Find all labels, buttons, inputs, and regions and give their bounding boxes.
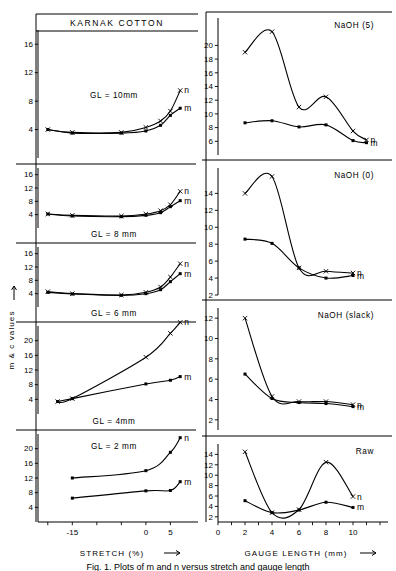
series-label-m: m [357,502,364,512]
x-tick-label: 2 [243,528,248,537]
data-point-x [178,189,182,193]
y-tick-label: 16 [24,249,33,258]
panel-left-4: 48121620GL = 2 mmnm-1505 [24,433,198,537]
panel-label: NaOH (5) [334,21,374,30]
data-point-square [352,506,355,509]
y-tick-label: 18 [204,55,213,64]
series-curve-n [245,452,353,518]
panel-left-1: 481216GL = 8 mmnm [24,168,191,239]
data-point-square [365,141,368,144]
y-tick-label: 10 [204,471,213,480]
y-tick-label: 16 [24,459,33,468]
data-point-square [71,293,74,296]
data-point-square [71,477,74,480]
data-point-square [325,501,328,504]
series-label-m: m [184,269,191,279]
data-point-x [168,275,172,279]
data-point-square [352,139,355,142]
panel-label: GL = 6 mm [91,309,137,318]
data-point-square [179,272,182,275]
x-tick-label: 10 [349,528,358,537]
data-point-square [46,291,49,294]
data-point-square [71,497,74,500]
data-point-x [270,30,274,34]
data-point-square [169,114,172,117]
series-label-n: n [184,85,189,95]
data-point-square [71,397,74,400]
figure-container: KARNAK COTTON481216GL = 10mmnm481216GL =… [0,0,396,571]
data-point-x [351,494,355,498]
data-point-square [159,288,162,291]
y-tick-label: 20 [24,444,33,453]
series-label-m: m [357,271,364,281]
data-point-square [144,469,147,472]
y-tick-label: 8 [209,355,214,364]
y-tick-label: 20 [204,41,213,50]
panel-label: NaOH (slack) [318,311,374,320]
panel-label: GL = 4mm [93,417,136,426]
data-point-square [144,129,147,132]
y-tick-label: 12 [204,461,213,470]
data-point-square [159,124,162,127]
x-tick-label: 5 [168,528,173,537]
series-label-m: m [184,372,191,382]
data-point-square [179,107,182,110]
series-label-m: m [184,477,191,487]
series-curve-n [245,318,353,404]
panel-left-0: 481216GL = 10mmnm [24,30,191,158]
series-label-m: m [184,196,191,206]
data-point-square [298,266,301,269]
data-point-square [144,382,147,385]
y-tick-label: 8 [29,197,34,206]
y-tick-label: 12 [24,366,33,375]
data-point-square [169,379,172,382]
panel-left-3: 48121620GL = 4mmnm [24,317,191,426]
series-curve-n [245,173,353,276]
series-label-n: n [357,492,362,502]
panel-label: Raw [356,447,374,456]
data-point-square [169,205,172,208]
y-tick-label: 4 [209,395,214,404]
data-point-square [120,294,123,297]
data-point-square [325,277,328,280]
x-tick-label: 4 [270,528,275,537]
y-tick-label: 6 [209,492,214,501]
yaxis-arrow-icon [12,286,17,300]
yaxis-label: m & c values [7,311,16,370]
y-tick-label: 12 [204,314,213,323]
y-tick-label: 8 [29,488,34,497]
x-tick-label: 0 [144,528,149,537]
y-tick-label: 8 [29,380,34,389]
y-tick-label: 10 [204,110,213,119]
data-point-square [244,373,247,376]
panel-right-1: 2468101214NaOH (0)nm [204,168,374,300]
y-tick-label: 16 [24,351,33,360]
y-tick-label: 2 [209,291,214,300]
data-point-square [271,511,274,514]
y-tick-label: 8 [29,276,34,285]
y-tick-label: 12 [204,96,213,105]
y-tick-label: 4 [29,289,34,298]
data-point-x [270,174,274,178]
series-curve-m [58,377,181,402]
y-tick-label: 16 [24,170,33,179]
y-tick-label: 2 [209,513,214,522]
data-point-square [120,132,123,135]
data-point-square [144,489,147,492]
data-point-x [351,129,355,133]
y-tick-label: 12 [24,474,33,483]
data-point-x [168,331,172,335]
data-point-square [298,125,301,128]
data-point-square [271,242,274,245]
panel-right-3: 2468101214Rawnm0246810 [204,444,388,537]
figure-caption: Fig. 1. Plots of m and n versus stretch … [86,562,309,571]
data-point-square [169,489,172,492]
series-label-n: n [184,259,189,269]
y-tick-label: 20 [24,336,33,345]
data-point-square [298,401,301,404]
y-tick-label: 16 [204,69,213,78]
series-label-n: n [184,433,189,443]
left-xaxis-label: STRETCH (%) [80,549,145,558]
y-tick-label: 6 [209,257,214,266]
data-point-x [158,119,162,123]
